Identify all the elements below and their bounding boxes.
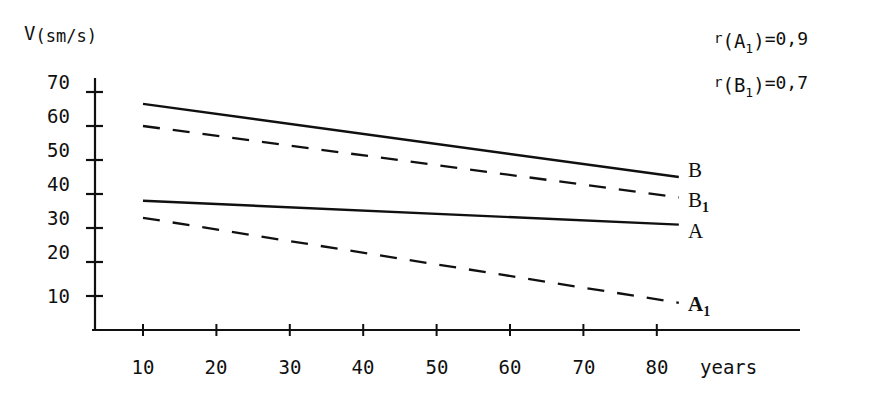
series-line-A xyxy=(143,201,679,225)
series-lines-group xyxy=(143,104,679,303)
series-line-A1 xyxy=(143,218,679,303)
axes-group xyxy=(92,78,800,331)
series-line-B xyxy=(143,104,679,177)
plot-area xyxy=(0,0,873,406)
series-line-B1 xyxy=(143,126,679,197)
chart-figure: V(sm/s) 70 60 50 40 30 20 10 10 20 30 40… xyxy=(0,0,873,406)
